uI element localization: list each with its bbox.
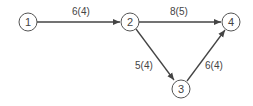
edge-label-1-2: 6(4): [72, 6, 90, 17]
network-diagram: 6(4) 8(5) 5(4) 6(4) 1 2 3 4: [0, 0, 253, 106]
edge-3-4: 6(4): [187, 30, 225, 81]
edge-label-2-4: 8(5): [170, 6, 188, 17]
node-4: 4: [222, 13, 240, 31]
edge-2-4: 8(5): [139, 6, 221, 22]
node-1: 1: [19, 13, 37, 31]
node-2: 2: [121, 13, 139, 31]
edge-label-3-4: 6(4): [205, 60, 223, 71]
edge-label-2-3: 5(4): [135, 60, 153, 71]
node-label-2: 2: [127, 16, 133, 28]
node-3: 3: [172, 80, 190, 98]
node-label-3: 3: [178, 83, 184, 95]
node-label-4: 4: [228, 16, 234, 28]
node-label-1: 1: [25, 16, 31, 28]
edge-2-3: 5(4): [135, 29, 174, 80]
edge-1-2: 6(4): [37, 6, 120, 22]
